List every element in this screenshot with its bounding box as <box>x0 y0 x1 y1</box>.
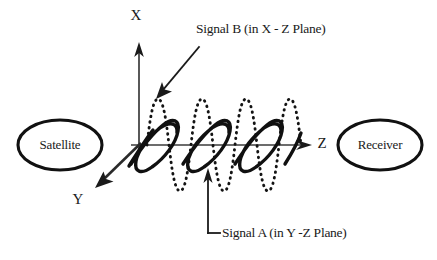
signal-a-loop-2 <box>183 120 230 171</box>
x-axis: X <box>131 7 144 152</box>
receiver-node[interactable]: Receiver <box>338 120 422 170</box>
x-axis-label: X <box>131 7 142 23</box>
signal-b-callout[interactable]: Signal B (in X - Z Plane) <box>156 21 325 99</box>
signal-b-leader-line <box>163 47 199 90</box>
axis-group: X Z Y <box>73 7 327 207</box>
signal-a-head <box>129 130 153 166</box>
signal-propagation-diagram: Satellite Receiver X Z <box>0 0 437 260</box>
y-axis-label: Y <box>73 191 84 207</box>
z-axis-label: Z <box>317 135 326 151</box>
diagram-canvas: Satellite Receiver X Z <box>0 0 437 260</box>
signal-a-loop-3 <box>235 120 282 171</box>
signal-b-label: Signal B (in X - Z Plane) <box>196 21 325 36</box>
receiver-label: Receiver <box>358 137 403 152</box>
satellite-node[interactable]: Satellite <box>18 120 102 170</box>
signal-b-leader-arrowhead-icon <box>156 82 172 99</box>
satellite-label: Satellite <box>40 137 81 152</box>
signal-a-label: Signal A (in Y -Z Plane) <box>222 225 347 240</box>
